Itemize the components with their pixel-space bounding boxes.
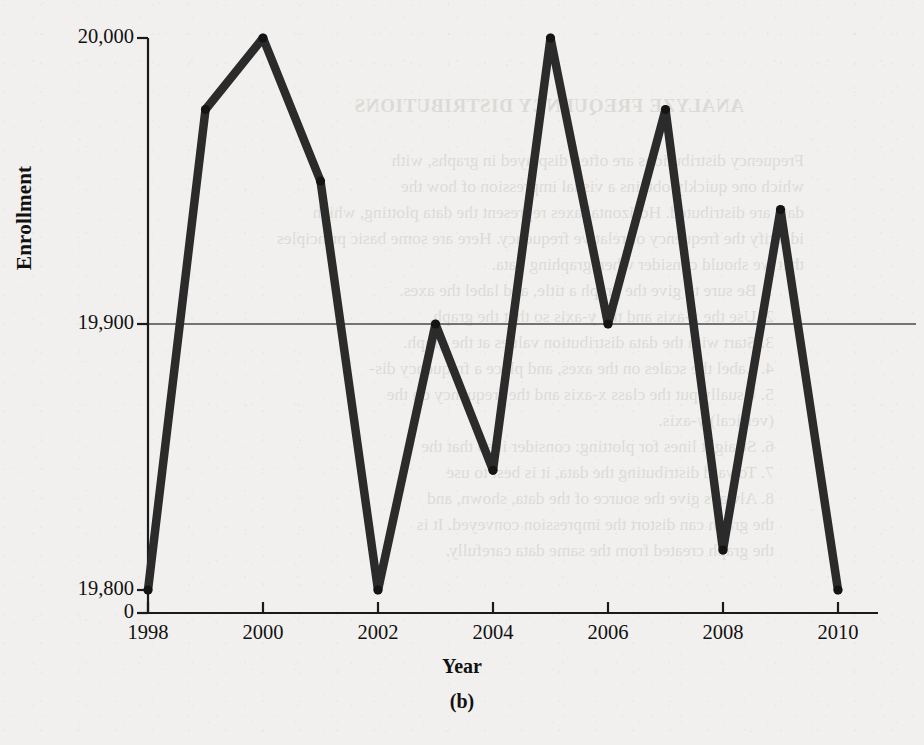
data-point-2005 xyxy=(546,33,555,42)
data-point-2003 xyxy=(431,319,440,328)
x-tick-label-2004: 2004 xyxy=(443,621,543,644)
data-point-2002 xyxy=(373,585,382,594)
data-point-2001 xyxy=(316,176,325,185)
enrollment-line xyxy=(148,38,838,590)
data-point-2007 xyxy=(661,105,670,114)
data-point-1999 xyxy=(201,105,210,114)
data-point-2000 xyxy=(258,33,267,42)
x-tick-label-2008: 2008 xyxy=(673,621,773,644)
axis-ticks-group xyxy=(137,38,838,613)
subfigure-label: (b) xyxy=(0,690,924,713)
data-point-2010 xyxy=(833,585,842,594)
data-point-1998 xyxy=(143,585,152,594)
data-point-2006 xyxy=(603,319,612,328)
x-axis-title: Year xyxy=(0,655,924,678)
data-point-markers xyxy=(143,33,842,594)
enrollment-line-chart-figure: Enrollment 20,00019,90019,8000 199820002… xyxy=(0,0,924,745)
x-tick-label-2006: 2006 xyxy=(558,621,658,644)
data-point-2008 xyxy=(718,546,727,555)
y-tick-label-0: 0 xyxy=(30,600,134,623)
x-tick-label-1998: 1998 xyxy=(98,621,198,644)
data-point-2009 xyxy=(776,205,785,214)
y-tick-label-19900: 19,900 xyxy=(30,311,134,334)
data-line-series xyxy=(148,38,838,590)
x-tick-label-2010: 2010 xyxy=(788,621,888,644)
x-tick-label-2002: 2002 xyxy=(328,621,428,644)
data-point-2004 xyxy=(488,466,497,475)
x-tick-label-2000: 2000 xyxy=(213,621,313,644)
y-tick-label-20000: 20,000 xyxy=(30,25,134,48)
y-tick-label-19800: 19,800 xyxy=(30,577,134,600)
